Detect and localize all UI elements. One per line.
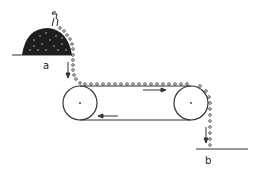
arrow-right-top — [143, 88, 166, 92]
figure-icon — [52, 12, 58, 26]
pulley-right-axle — [190, 102, 192, 104]
label-b: b — [205, 155, 211, 166]
arrow-down-a — [66, 62, 70, 78]
diagram-canvas — [0, 0, 260, 170]
conveyor-diagram: a b — [0, 0, 260, 170]
label-a: a — [43, 60, 49, 71]
arrow-down-b — [204, 127, 208, 143]
pulley-left-axle — [79, 102, 81, 104]
arrow-left-bottom — [98, 114, 118, 118]
